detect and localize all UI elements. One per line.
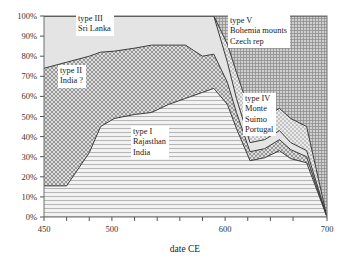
y-tick-label: 0% [26, 212, 37, 222]
y-axis: 0%10%20%30%40%50%60%70%80%90%100% [17, 11, 44, 222]
annotation-type-ii: type II India ? [58, 65, 86, 88]
area-chart-canvas: 0%10%20%30%40%50%60%70%80%90%100% 450500… [0, 0, 347, 259]
y-tick-label: 20% [21, 172, 37, 182]
y-tick-label: 50% [21, 112, 37, 122]
y-tick-label: 40% [21, 132, 37, 142]
chart-figure: 0%10%20%30%40%50%60%70%80%90%100% 450500… [0, 0, 347, 259]
annotation-type-v: type V Bohemia mounts Czech rep [228, 15, 290, 48]
y-tick-label: 60% [21, 91, 37, 101]
y-tick-label: 80% [21, 51, 37, 61]
x-axis-title: date CE [170, 244, 201, 254]
y-tick-label: 90% [21, 31, 37, 41]
x-tick-label: 450 [38, 224, 51, 234]
y-tick-label: 100% [17, 11, 37, 21]
x-axis: 450500600700 [38, 217, 334, 234]
annotation-type-i: type I Rajasthan India [131, 126, 169, 159]
x-tick-label: 700 [321, 224, 334, 234]
y-tick-label: 10% [21, 192, 37, 202]
y-tick-label: 70% [21, 71, 37, 81]
annotation-type-iii: type III Sri Lanka [76, 13, 114, 36]
x-tick-label: 600 [219, 224, 232, 234]
x-tick-label: 500 [106, 224, 119, 234]
annotation-type-iv: type IV Monte Suimo Portugal [243, 93, 276, 136]
y-tick-label: 30% [21, 152, 37, 162]
